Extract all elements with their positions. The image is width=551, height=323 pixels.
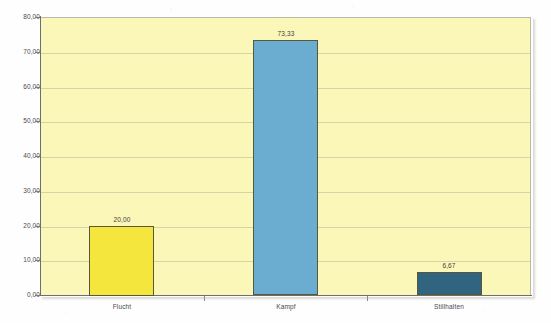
y-tick-mark	[35, 156, 40, 157]
y-tick-mark	[35, 121, 40, 122]
x-category-label: Stillhalten	[399, 303, 499, 310]
y-tick-mark	[35, 260, 40, 261]
bar-chart: 80,0070,0060,0050,0040,0030,0020,0010,00…	[0, 0, 551, 323]
y-tick-mark	[35, 87, 40, 88]
bar-value-label: 6,67	[409, 262, 489, 269]
x-axis-separator-tick	[367, 296, 368, 301]
y-tick-mark	[35, 226, 40, 227]
x-axis-separator-tick	[204, 296, 205, 301]
y-tick-mark	[35, 295, 40, 296]
y-tick-mark	[35, 17, 40, 18]
bar-stillhalten	[417, 272, 482, 295]
bar-kampf	[253, 40, 318, 295]
bar-flucht	[89, 226, 154, 296]
y-tick-mark	[35, 52, 40, 53]
y-axis-line	[40, 16, 41, 296]
x-category-label: Kampf	[236, 303, 336, 310]
bar-value-label: 20,00	[82, 216, 162, 223]
y-axis: 80,0070,0060,0050,0040,0030,0020,0010,00…	[0, 0, 40, 323]
bar-value-label: 73,33	[246, 30, 326, 37]
x-category-label: Flucht	[72, 303, 172, 310]
y-tick-mark	[35, 191, 40, 192]
